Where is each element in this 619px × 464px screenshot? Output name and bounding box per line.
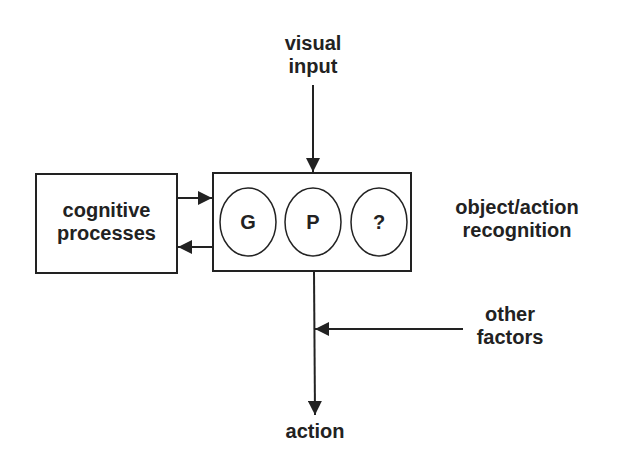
cognitive-processes-line2: processes xyxy=(36,222,177,245)
visual-input-line2: input xyxy=(263,55,363,78)
other-factors-line2: factors xyxy=(465,326,555,349)
other-factors-label: other factors xyxy=(465,303,555,349)
action-label: action xyxy=(265,420,365,443)
circle-question-label: ? xyxy=(359,210,399,234)
recognition-label: object/action recognition xyxy=(432,196,602,242)
recognition-line2: recognition xyxy=(432,219,602,242)
visual-input-line1: visual xyxy=(263,32,363,55)
cognitive-processes-label: cognitive processes xyxy=(36,199,177,245)
recognition-line1: object/action xyxy=(432,196,602,219)
visual-input-label: visual input xyxy=(263,32,363,78)
other-factors-line1: other xyxy=(465,303,555,326)
action-arrow xyxy=(314,271,315,415)
circle-g-label: G xyxy=(228,210,268,234)
cognitive-processes-line1: cognitive xyxy=(36,199,177,222)
circle-p-label: P xyxy=(293,210,333,234)
